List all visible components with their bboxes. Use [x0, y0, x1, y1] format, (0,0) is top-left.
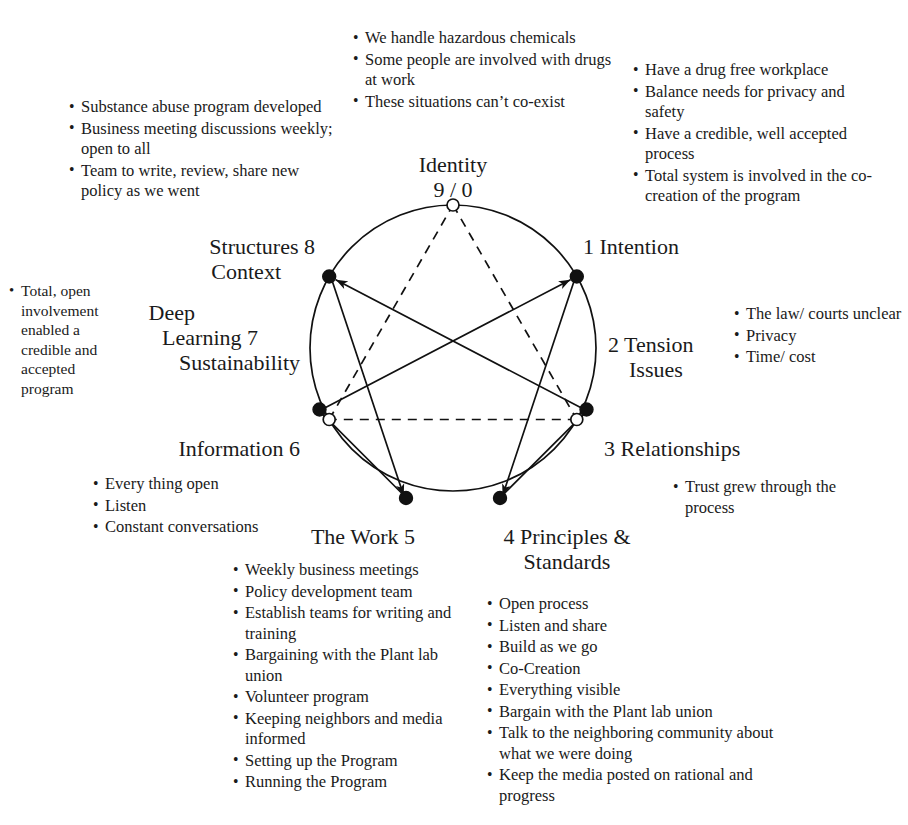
deep-learning-notes-list: Total, open involvement enabled a credib… — [8, 281, 126, 398]
enneagram-label-7-line3: Sustainability — [128, 350, 300, 375]
the-work-notes-list: Weekly business meetings Policy developm… — [232, 560, 467, 793]
enneagram-dashed-triangle — [329, 205, 577, 420]
list-item: Everything visible — [486, 680, 806, 701]
principles-notes-block: Open process Listen and share Build as w… — [486, 594, 806, 807]
structures-notes-block: Substance abuse program developed Busine… — [68, 97, 340, 203]
list-item: Running the Program — [232, 772, 467, 793]
list-item: Have a drug free workplace — [632, 60, 882, 81]
enneagram-label-9: Identity 9 / 0 — [383, 152, 523, 202]
enneagram-label-6: Information 6 — [128, 436, 300, 461]
list-item: Total, open involvement enabled a credib… — [8, 281, 126, 398]
enneagram-label-4-line1: 4 Principles & — [472, 524, 662, 549]
enneagram-node-7[interactable] — [313, 403, 326, 416]
identity-notes-list: We handle hazardous chemicals Some peopl… — [352, 28, 620, 112]
relationships-notes-block: Trust grew through the process — [672, 477, 872, 519]
list-item: Time/ cost — [733, 347, 905, 368]
list-item: Talk to the neighboring community about … — [486, 723, 806, 764]
list-item: Keeping neighbors and media informed — [232, 709, 467, 750]
list-item: Balance needs for privacy and safety — [632, 82, 882, 123]
list-item: Listen — [92, 496, 322, 517]
principles-notes-list: Open process Listen and share Build as w… — [486, 594, 806, 806]
enneagram-label-5-line1: The Work 5 — [268, 524, 458, 549]
enneagram-label-2-line2: Issues — [608, 357, 758, 382]
enneagram-svg — [295, 205, 615, 525]
list-item: Volunteer program — [232, 687, 467, 708]
list-item: We handle hazardous chemicals — [352, 28, 620, 49]
tension-notes-block: The law/ courts unclear Privacy Time/ co… — [733, 304, 905, 369]
enneagram-label-8: Structures 8 Context — [148, 234, 315, 284]
list-item: Listen and share — [486, 616, 806, 637]
enneagram-hexad-path — [319, 277, 587, 498]
list-item: Build as we go — [486, 637, 806, 658]
list-item: Every thing open — [92, 474, 322, 495]
list-item: Bargain with the Plant lab union — [486, 702, 806, 723]
list-item: The law/ courts unclear — [733, 304, 905, 325]
enneagram-label-9-line1: Identity — [383, 152, 523, 177]
enneagram-label-4: 4 Principles & Standards — [472, 524, 662, 574]
intention-notes-block: Have a drug free workplace Balance needs… — [632, 60, 882, 208]
list-item: Trust grew through the process — [672, 477, 872, 518]
structures-notes-list: Substance abuse program developed Busine… — [68, 97, 340, 202]
list-item: Setting up the Program — [232, 751, 467, 772]
enneagram-node-1[interactable] — [570, 270, 583, 283]
enneagram-label-8-line2: Context — [148, 259, 315, 284]
list-item: Some people are involved with drugs at w… — [352, 50, 620, 91]
enneagram-node-9[interactable] — [447, 199, 459, 211]
enneagram-label-6-line1: Information 6 — [128, 436, 300, 461]
list-item: Business meeting discussions weekly; ope… — [68, 119, 340, 160]
enneagram-label-3: 3 Relationships — [604, 436, 740, 461]
enneagram-label-7-line1: Deep — [128, 300, 300, 325]
intention-notes-list: Have a drug free workplace Balance needs… — [632, 60, 882, 207]
enneagram-label-7-line2: Learning 7 — [128, 325, 300, 350]
list-item: Co-Creation — [486, 659, 806, 680]
enneagram-label-5: The Work 5 — [268, 524, 458, 549]
enneagram-label-2: 2 Tension Issues — [608, 332, 758, 382]
relationships-notes-list: Trust grew through the process — [672, 477, 872, 518]
enneagram-label-4-line2: Standards — [472, 549, 662, 574]
enneagram-node-4[interactable] — [494, 492, 507, 505]
list-item: Weekly business meetings — [232, 560, 467, 581]
tension-notes-list: The law/ courts unclear Privacy Time/ co… — [733, 304, 905, 368]
enneagram-node-6[interactable] — [323, 414, 335, 426]
enneagram-label-8-line1: Structures 8 — [148, 234, 315, 259]
enneagram-node-5[interactable] — [400, 492, 413, 505]
list-item: Team to write, review, share new policy … — [68, 161, 340, 202]
enneagram-label-2-line1: 2 Tension — [608, 332, 758, 357]
list-item: Substance abuse program developed — [68, 97, 340, 118]
enneagram-node-8[interactable] — [323, 270, 336, 283]
list-item: These situations can’t co-exist — [352, 92, 620, 113]
list-item: Have a credible, well accepted process — [632, 124, 882, 165]
identity-notes-block: We handle hazardous chemicals Some peopl… — [352, 28, 620, 113]
list-item: Privacy — [733, 326, 905, 347]
list-item: Total system is involved in the co-creat… — [632, 166, 882, 207]
enneagram-node-3[interactable] — [571, 414, 583, 426]
deep-learning-notes-block: Total, open involvement enabled a credib… — [8, 281, 126, 399]
enneagram-label-3-line1: 3 Relationships — [604, 436, 740, 461]
enneagram-label-7: Deep Learning 7 Sustainability — [128, 300, 300, 375]
list-item: Keep the media posted on rational and pr… — [486, 765, 806, 806]
enneagram-outer-circle — [310, 205, 596, 491]
enneagram-node-2[interactable] — [580, 403, 593, 416]
enneagram-figure — [295, 205, 615, 525]
list-item: Establish teams for writing and training — [232, 603, 467, 644]
list-item: Open process — [486, 594, 806, 615]
the-work-notes-block: Weekly business meetings Policy developm… — [232, 560, 467, 794]
list-item: Bargaining with the Plant lab union — [232, 645, 467, 686]
list-item: Policy development team — [232, 582, 467, 603]
